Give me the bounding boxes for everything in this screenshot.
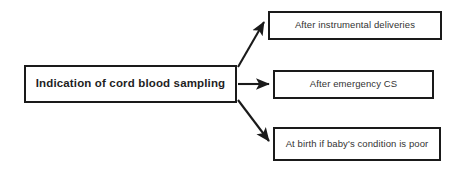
- root-node-label: Indication of cord blood sampling: [32, 77, 230, 90]
- arrow-to-instrumental-deliveries: [238, 22, 264, 67]
- branch-node-label: After instrumental deliveries: [291, 20, 419, 31]
- branch-node-at-birth-if-babys-condition-is-poor: At birth if baby's condition is poor: [273, 127, 441, 161]
- branch-node-label: At birth if baby's condition is poor: [282, 139, 433, 150]
- branch-node-label: After emergency CS: [306, 79, 401, 90]
- arrow-to-poor-condition: [238, 100, 269, 141]
- diagram-canvas: Indication of cord blood sampling After …: [0, 0, 463, 171]
- branch-node-after-emergency-cs: After emergency CS: [273, 70, 434, 99]
- branch-node-after-instrumental-deliveries: After instrumental deliveries: [268, 11, 442, 40]
- root-node-indication-of-cord-blood-sampling: Indication of cord blood sampling: [24, 65, 237, 103]
